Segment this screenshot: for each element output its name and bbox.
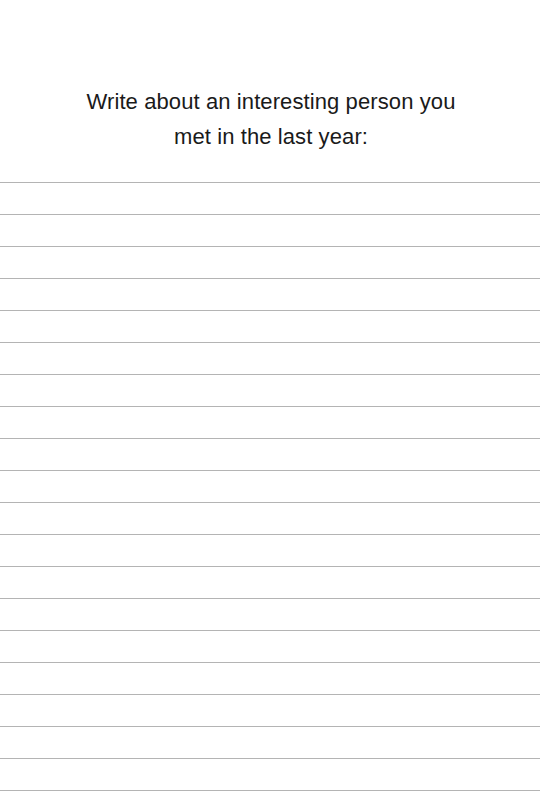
writing-line	[0, 726, 540, 727]
writing-line	[0, 406, 540, 407]
writing-lines[interactable]	[0, 0, 542, 810]
writing-line	[0, 342, 540, 343]
writing-line	[0, 278, 540, 279]
writing-line	[0, 214, 540, 215]
writing-line	[0, 662, 540, 663]
writing-line	[0, 790, 540, 791]
writing-line	[0, 758, 540, 759]
journal-page: Write about an interesting person you me…	[0, 0, 542, 810]
writing-line	[0, 246, 540, 247]
writing-line	[0, 694, 540, 695]
writing-line	[0, 310, 540, 311]
writing-line	[0, 502, 540, 503]
writing-line	[0, 630, 540, 631]
writing-line	[0, 438, 540, 439]
writing-line	[0, 470, 540, 471]
writing-line	[0, 374, 540, 375]
writing-line	[0, 598, 540, 599]
writing-line	[0, 534, 540, 535]
writing-line	[0, 566, 540, 567]
writing-line	[0, 182, 540, 183]
